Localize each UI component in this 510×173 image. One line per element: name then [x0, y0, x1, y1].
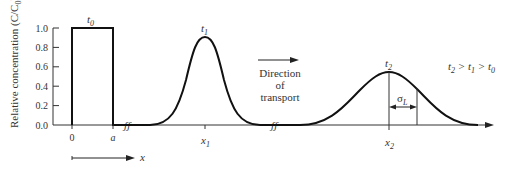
concentration-diagram: Relative concentration (C/C0) 1.0 0.8 0.… — [0, 0, 510, 173]
x-tick-x1: x1 — [200, 134, 210, 149]
t0-label: t0 — [87, 13, 94, 28]
svg-text:0.0: 0.0 — [36, 120, 49, 131]
time-inequality: t2 > t1 > t0 — [448, 60, 495, 75]
x-tick-x2: x2 — [384, 136, 394, 151]
x-axis-arrow-icon — [485, 122, 494, 128]
t2-label: t2 — [385, 57, 392, 72]
y-ticks — [53, 28, 59, 106]
direction-arrow-icon — [290, 57, 299, 63]
svg-text:1.0: 1.0 — [36, 23, 49, 34]
sigma-label: σL — [397, 92, 408, 107]
sigma-arrow-right-icon — [410, 105, 417, 110]
x-direction-arrow-icon — [126, 155, 135, 161]
direction-label-line2: of — [275, 79, 285, 91]
t1-label: t1 — [201, 22, 208, 37]
series-t0-pulse — [72, 28, 120, 125]
series-t1-curve — [120, 37, 300, 125]
svg-text:0.6: 0.6 — [36, 61, 49, 72]
svg-text:0.2: 0.2 — [36, 100, 49, 111]
svg-text:0.8: 0.8 — [36, 42, 49, 53]
x-direction-label: x — [139, 151, 145, 163]
y-axis-label: Relative concentration (C/C0) — [8, 0, 23, 128]
direction-label-line3: transport — [260, 91, 299, 103]
sigma-arrow-left-icon — [389, 105, 396, 110]
y-tick-labels: 1.0 0.8 0.6 0.4 0.2 0.0 — [36, 23, 49, 131]
x-tick-0: 0 — [70, 132, 75, 143]
direction-label-line1: Direction — [259, 67, 301, 79]
x-tick-a: a — [111, 132, 116, 143]
svg-text:0.4: 0.4 — [36, 81, 49, 92]
